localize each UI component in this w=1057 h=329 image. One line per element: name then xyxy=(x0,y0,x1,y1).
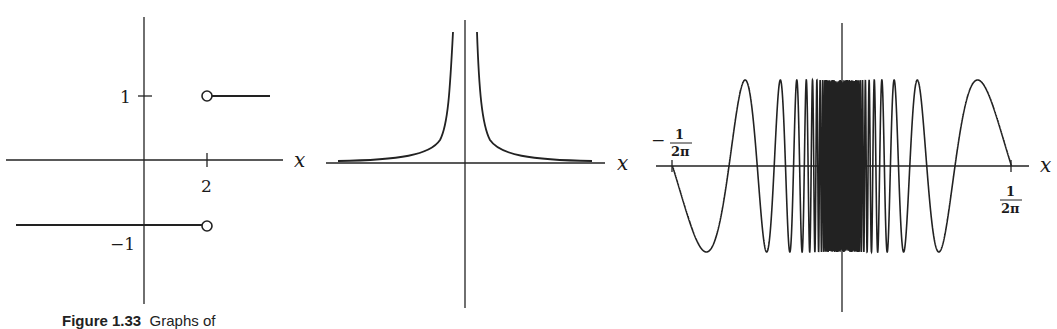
open-circle-lower xyxy=(202,221,212,231)
x-axis-label: x xyxy=(1040,153,1051,177)
svg-text:2π: 2π xyxy=(1001,201,1020,216)
x-axis-label: x xyxy=(294,148,305,172)
right-endpoint-label: 1 2π xyxy=(1000,184,1022,216)
right-branch xyxy=(477,32,592,161)
x-axis-label: x xyxy=(617,151,628,175)
figure-caption: Figure 1.33 Graphs of xyxy=(62,312,215,329)
y-tick-label-1: 1 xyxy=(120,87,131,107)
svg-text:2π: 2π xyxy=(671,144,690,159)
asymptote-plot xyxy=(326,20,605,308)
open-circle-upper xyxy=(202,91,212,101)
left-branch xyxy=(338,32,453,161)
left-endpoint-label: − 1 2π xyxy=(651,127,692,159)
svg-text:1: 1 xyxy=(675,127,684,142)
caption-text: Graphs of xyxy=(150,312,216,329)
y-tick-label-neg1: −1 xyxy=(110,234,135,254)
svg-text:1: 1 xyxy=(1006,184,1015,199)
caption-label: Figure 1.33 xyxy=(62,312,141,329)
svg-text:−: − xyxy=(651,130,665,150)
x-tick-label-2: 2 xyxy=(201,176,212,196)
step-function-plot xyxy=(6,17,283,304)
sin-one-over-x-plot xyxy=(656,23,1029,312)
